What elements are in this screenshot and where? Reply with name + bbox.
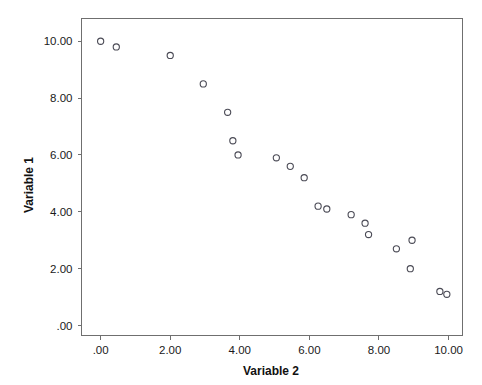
scatter-point: [273, 155, 279, 161]
scatter-point: [393, 246, 399, 252]
x-tick-label: 6.00: [298, 344, 320, 356]
x-tick-label: 4.00: [229, 344, 251, 356]
plot-canvas: .002.004.006.008.0010.00 .002.004.006.00…: [0, 0, 482, 385]
scatter-point: [200, 81, 206, 87]
scatter-point: [98, 38, 104, 44]
scatter-point: [113, 44, 119, 50]
scatter-point: [365, 231, 371, 237]
scatter-point: [167, 52, 173, 58]
x-tick-label: 2.00: [159, 344, 181, 356]
y-axis-tick-labels: .002.004.006.008.0010.00: [44, 35, 73, 331]
y-tick-label: 2.00: [50, 263, 72, 275]
data-points: [98, 38, 450, 297]
y-tick-label: 4.00: [50, 206, 72, 218]
x-tick-label: .00: [93, 344, 109, 356]
y-tick-label: 10.00: [44, 35, 73, 47]
scatter-point: [409, 237, 415, 243]
scatter-point: [287, 163, 293, 169]
y-tick-label: .00: [57, 320, 73, 332]
x-tick-label: 8.00: [368, 344, 390, 356]
y-axis-title: Variable 1: [22, 157, 36, 213]
x-axis-tick-marks: [101, 336, 449, 340]
x-axis-tick-labels: .002.004.006.008.0010.00: [93, 344, 463, 356]
scatterplot-figure: .002.004.006.008.0010.00 .002.004.006.00…: [0, 0, 482, 385]
scatter-point: [444, 291, 450, 297]
scatter-point: [315, 203, 321, 209]
y-tick-label: 8.00: [50, 92, 72, 104]
x-tick-label: 10.00: [434, 344, 463, 356]
y-tick-label: 6.00: [50, 149, 72, 161]
x-axis-title: Variable 2: [243, 364, 299, 378]
scatter-point: [235, 152, 241, 158]
scatter-point: [362, 220, 368, 226]
plot-frame: [82, 19, 463, 336]
scatter-point: [230, 138, 236, 144]
scatter-point: [301, 175, 307, 181]
scatter-point: [348, 212, 354, 218]
scatter-point: [437, 288, 443, 294]
scatter-point: [324, 206, 330, 212]
scatter-point: [407, 266, 413, 272]
scatter-point: [225, 109, 231, 115]
y-axis-tick-marks: [78, 41, 82, 325]
